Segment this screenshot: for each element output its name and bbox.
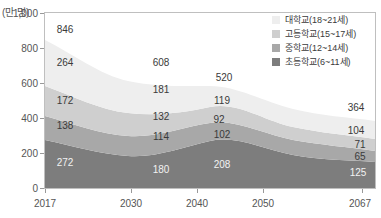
stacked-area-chart: (만 명) 1,000 800 600 400 200 0 846 264: [0, 0, 381, 218]
data-label-2040-middle: 102: [214, 130, 231, 140]
y-tick-label-600: 600: [21, 78, 38, 89]
data-label-2017-total: 846: [57, 25, 74, 35]
legend-item-university[interactable]: 대학교(18~21세): [272, 14, 356, 26]
x-tick-mark-2040: [197, 189, 198, 193]
data-label-2067-university: 104: [348, 126, 365, 136]
y-axis: 1,000 800 600 400 200 0: [0, 0, 44, 218]
legend-item-highschool[interactable]: 고등학교(15~17세): [272, 28, 356, 40]
data-label-2017-elementary: 272: [57, 158, 74, 168]
legend-label-middle: 중학교(12~14세): [285, 44, 348, 53]
legend-swatch-middle-icon: [272, 44, 280, 52]
x-tick-label-2050: 2050: [252, 198, 274, 209]
data-label-2040-university: 119: [214, 96, 230, 106]
legend-label-highschool: 고등학교(15~17세): [285, 30, 356, 39]
x-tick-label-2017: 2017: [34, 198, 56, 209]
data-label-2067-total: 364: [348, 103, 365, 113]
data-label-2067-middle: 65: [354, 152, 365, 162]
y-tick-label-400: 400: [21, 113, 38, 124]
data-label-2017-highschool: 172: [57, 96, 74, 106]
data-label-2040-highschool: 92: [213, 115, 224, 125]
data-label-2017-university: 264: [57, 58, 74, 68]
x-tick-mark-2067: [362, 189, 363, 193]
chart-legend: 대학교(18~21세) 고등학교(15~17세) 중학교(12~14세) 초등학…: [272, 14, 356, 68]
legend-item-middle[interactable]: 중학교(12~14세): [272, 42, 356, 54]
x-tick-label-2067: 2067: [349, 198, 371, 209]
data-label-2030-university: 181: [153, 85, 170, 95]
x-tick-mark-2030: [131, 189, 132, 193]
data-label-2067-highschool: 71: [354, 140, 365, 150]
y-tick-label-1000: 1,000: [13, 8, 38, 19]
x-tick-mark-2017: [45, 189, 46, 193]
data-label-2030-middle: 114: [153, 132, 169, 142]
data-label-2017-middle: 138: [57, 121, 74, 131]
x-axis: 2017 2030 2040 2050 2067: [0, 189, 381, 218]
data-label-2030-total: 608: [153, 58, 170, 68]
y-tick-label-200: 200: [21, 148, 38, 159]
data-label-2067-elementary: 125: [350, 168, 367, 178]
legend-item-elementary[interactable]: 초등학교(6~11세): [272, 56, 356, 68]
legend-swatch-university-icon: [272, 16, 280, 24]
data-label-2040-elementary: 208: [214, 160, 231, 170]
legend-label-elementary: 초등학교(6~11세): [285, 58, 351, 67]
x-tick-label-2040: 2040: [186, 198, 208, 209]
data-label-2030-elementary: 180: [153, 165, 170, 175]
legend-label-university: 대학교(18~21세): [285, 16, 348, 25]
y-tick-label-800: 800: [21, 43, 38, 54]
x-tick-label-2030: 2030: [120, 198, 142, 209]
x-tick-mark-2050: [263, 189, 264, 193]
legend-swatch-elementary-icon: [272, 58, 280, 66]
data-label-2030-highschool: 132: [153, 112, 170, 122]
data-label-2040-total: 520: [216, 73, 233, 83]
legend-swatch-highschool-icon: [272, 30, 280, 38]
